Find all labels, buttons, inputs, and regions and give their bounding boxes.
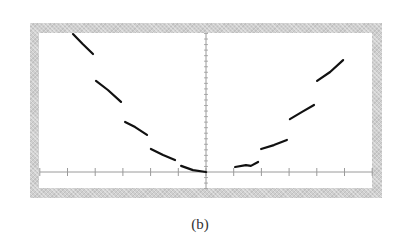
curve-dash-segment [181,166,206,172]
curve-dash-segment [290,105,314,119]
figure-caption: (b) [0,216,400,233]
curve-dash-segment [151,149,175,160]
dashed-curve [73,34,343,172]
curve-dash-segment [125,122,147,135]
curve-dash-segment [96,81,121,102]
curve-dash-segment [261,140,287,149]
chart-plot [0,0,400,244]
curve-dash-segment [235,162,258,167]
curve-dash-segment [317,60,343,81]
axes [40,34,372,189]
curve-dash-segment [73,34,93,54]
